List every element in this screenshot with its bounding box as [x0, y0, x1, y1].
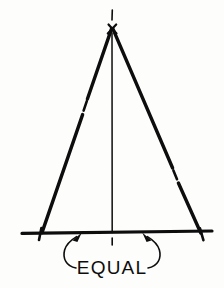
baseline: [22, 231, 212, 233]
left-leg: [39, 29, 112, 240]
triangle-diagram: EQUAL: [0, 0, 224, 288]
right-leg: [113, 29, 204, 241]
right-arrowhead-icon: [142, 233, 151, 242]
equal-label: EQUAL: [77, 257, 147, 278]
figure-root: EQUAL: [0, 0, 224, 288]
